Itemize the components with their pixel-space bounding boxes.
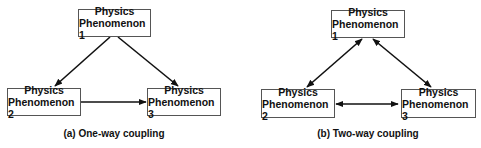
node-label-line1: Physics bbox=[164, 84, 204, 96]
arrow-a-p1-p3 bbox=[118, 37, 178, 86]
node-label-line1: Physics bbox=[24, 84, 64, 96]
caption-a: (a) One-way coupling bbox=[14, 128, 214, 139]
node-a-phenomenon-1: Physics Phenomenon 1 bbox=[78, 9, 151, 37]
arrow-b-p1-p2 bbox=[307, 39, 362, 87]
node-label-line1: Physics bbox=[348, 6, 388, 18]
node-a-phenomenon-3: Physics Phenomenon 3 bbox=[147, 88, 221, 116]
node-b-phenomenon-2: Physics Phenomenon 2 bbox=[261, 89, 335, 118]
arrows-layer bbox=[0, 0, 481, 148]
node-label-line2: Phenomenon 3 bbox=[402, 98, 475, 122]
node-b-phenomenon-3: Physics Phenomenon 3 bbox=[401, 89, 476, 118]
node-label-line1: Physics bbox=[95, 5, 135, 17]
node-label-line2: Phenomenon 2 bbox=[262, 98, 334, 122]
arrow-a-p1-p2 bbox=[55, 37, 110, 86]
node-label-line2: Phenomenon 1 bbox=[332, 18, 404, 42]
node-label-line1: Physics bbox=[278, 86, 318, 98]
node-label-line2: Phenomenon 1 bbox=[79, 17, 150, 41]
node-b-phenomenon-1: Physics Phenomenon 1 bbox=[331, 10, 405, 38]
node-label-line1: Physics bbox=[419, 86, 459, 98]
node-a-phenomenon-2: Physics Phenomenon 2 bbox=[7, 88, 81, 116]
node-label-line2: Phenomenon 3 bbox=[148, 96, 220, 120]
caption-b: (b) Two-way coupling bbox=[268, 128, 468, 139]
node-label-line2: Phenomenon 2 bbox=[8, 96, 80, 120]
arrow-b-p1-p3 bbox=[373, 39, 431, 87]
